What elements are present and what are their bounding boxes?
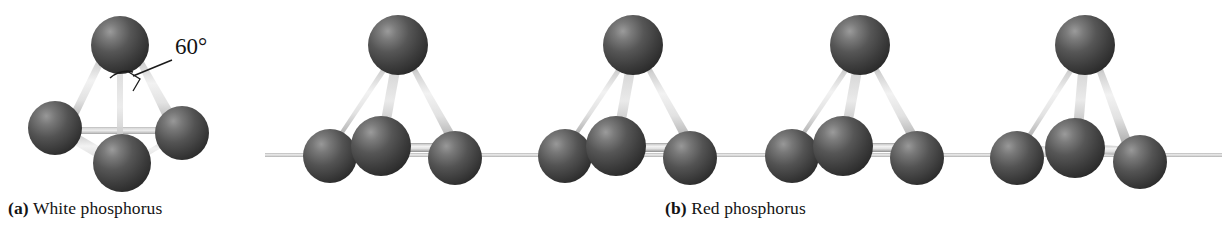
figure-container: 60° <box>0 0 1227 229</box>
unit2-atom-left <box>538 129 592 183</box>
atom-phosphorus-left <box>28 101 82 155</box>
caption-a-text: White phosphorus <box>33 198 162 218</box>
white-phosphorus-structure: 60° <box>28 16 209 192</box>
red-p-unit-1 <box>303 15 482 185</box>
unit3-atom-right <box>890 131 944 185</box>
unit4-atom-left <box>990 131 1044 185</box>
caption-white-phosphorus: (a) White phosphorus <box>8 198 162 219</box>
red-p-unit-4 <box>990 15 1167 189</box>
unit1-atom-left <box>303 129 357 183</box>
red-p-unit-2 <box>538 15 717 185</box>
unit3-atom-left <box>765 129 819 183</box>
unit1-atom-apex <box>368 15 428 75</box>
unit3-atom-center <box>813 116 873 176</box>
red-phosphorus-structure <box>265 15 1222 189</box>
molecule-illustration-svg: 60° <box>0 0 1227 229</box>
unit4-atom-apex <box>1055 15 1115 75</box>
unit2-atom-apex <box>603 15 663 75</box>
caption-red-phosphorus: (b) Red phosphorus <box>665 198 806 219</box>
unit4-atom-center <box>1045 118 1105 178</box>
caption-b-label: (b) <box>665 198 687 218</box>
atom-phosphorus-top <box>91 16 149 74</box>
unit2-atom-right <box>663 131 717 185</box>
unit3-atom-apex <box>830 15 890 75</box>
unit2-atom-center <box>586 116 646 176</box>
caption-a-label: (a) <box>8 198 29 218</box>
atom-phosphorus-front <box>93 134 151 192</box>
unit4-atom-right <box>1113 135 1167 189</box>
unit1-atom-right <box>428 131 482 185</box>
caption-b-text: Red phosphorus <box>691 198 806 218</box>
red-p-unit-3 <box>765 15 944 185</box>
unit1-atom-center <box>351 116 411 176</box>
atom-phosphorus-right <box>155 106 209 160</box>
angle-label: 60° <box>175 34 207 59</box>
